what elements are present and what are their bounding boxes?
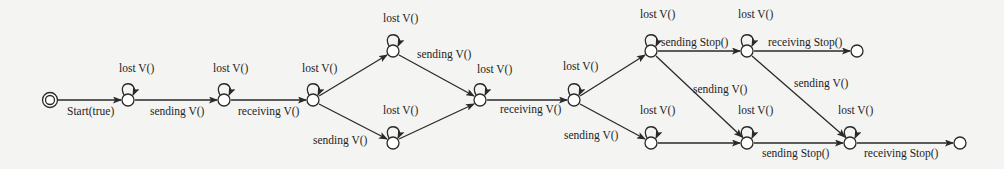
loop-label-s13: lost V() — [838, 104, 873, 117]
loop-label-s8: lost V() — [640, 8, 675, 21]
edge-label-s4-s6: sending V() — [417, 48, 472, 61]
state-diagram: lost V() lost V() lost V() lost V() lost… — [0, 0, 1004, 169]
loop-s13 — [844, 127, 856, 138]
edge-label-s9-s13: sending V() — [794, 77, 849, 90]
edge-label-s8-s12: sending V() — [693, 83, 748, 96]
loop-s7 — [568, 84, 580, 95]
loop-label-s6: lost V() — [477, 63, 512, 76]
loop-label-s1: lost V() — [119, 62, 154, 75]
loop-label-s5: lost V() — [383, 104, 418, 117]
state-s1 — [122, 94, 134, 106]
state-s14 — [954, 137, 966, 149]
state-s8 — [645, 45, 657, 57]
state-s9 — [741, 45, 753, 57]
state-s3 — [307, 94, 319, 106]
edge-label-s8-s9: sending Stop() — [661, 36, 729, 49]
loop-s1 — [122, 84, 134, 95]
loop-s5 — [387, 127, 399, 138]
state-s12 — [741, 137, 753, 149]
edge-label-s9-s10: receiving Stop() — [768, 36, 843, 49]
edge-label-s7-s11: sending V() — [564, 129, 619, 142]
edge-s9-s13 — [752, 56, 845, 137]
state-s13 — [844, 137, 856, 149]
loop-label-s9: lost V() — [738, 8, 773, 21]
edge-s8-s12 — [656, 56, 742, 137]
loop-s4 — [387, 35, 399, 46]
loop-s6 — [474, 84, 486, 95]
loop-label-s7: lost V() — [563, 60, 598, 73]
loop-label-s3: lost V() — [302, 62, 337, 75]
state-s2 — [218, 94, 230, 106]
edge-label-s12-s13: sending Stop() — [762, 147, 830, 160]
state-s11 — [645, 137, 657, 149]
loop-s11 — [645, 127, 657, 138]
edge-label-s1-s2: sending V() — [150, 105, 205, 118]
loop-label-s12: lost V() — [738, 104, 773, 117]
edge-s4-s6 — [399, 55, 474, 96]
labels: lost V() lost V() lost V() lost V() lost… — [67, 8, 939, 160]
state-s5 — [387, 137, 399, 149]
loop-s2 — [218, 84, 230, 95]
states — [43, 45, 967, 149]
state-s10 — [851, 45, 863, 57]
edge-label-start: Start(true) — [67, 105, 114, 118]
loop-s9 — [741, 35, 753, 46]
edge-label-s3-s5: sending V() — [313, 134, 368, 147]
edge-label-s13-s14: receiving Stop() — [864, 147, 939, 160]
state-s7 — [568, 94, 580, 106]
loop-s3 — [307, 84, 319, 95]
edge-label-s2-s3: receiving V() — [238, 105, 300, 118]
loop-label-s4: lost V() — [383, 12, 418, 25]
initial-state-inner — [46, 96, 55, 105]
loop-s8 — [645, 35, 657, 46]
state-s6 — [474, 94, 486, 106]
loop-label-s2: lost V() — [213, 62, 248, 75]
state-s4 — [387, 45, 399, 57]
edge-label-s6-s7: receiving V() — [500, 103, 562, 116]
loop-label-s11: lost V() — [640, 104, 675, 117]
loop-s12 — [741, 127, 753, 138]
